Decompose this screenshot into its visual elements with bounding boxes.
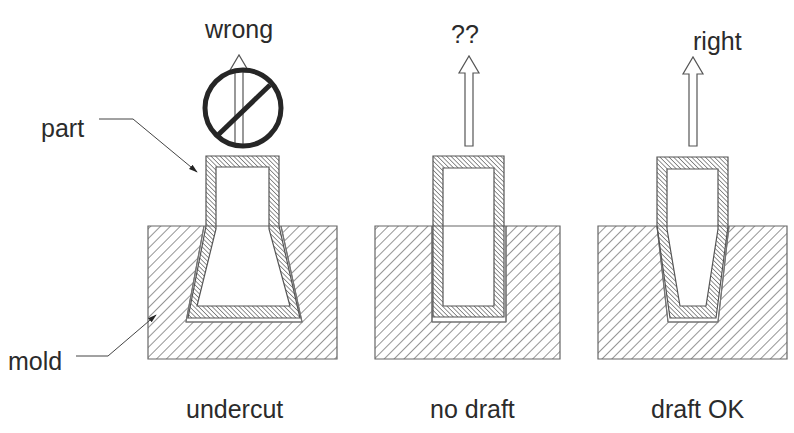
mold-block: [598, 226, 787, 359]
part-shell: [433, 156, 504, 317]
diagram-canvas: wrong ?? right part mold undercut no dra…: [0, 0, 794, 433]
ejection-arrow: [459, 56, 479, 146]
top-label-wrong: wrong: [205, 17, 273, 42]
top-label-right: right: [693, 29, 742, 54]
diagram-svg: [0, 0, 794, 433]
mold-label: mold: [8, 349, 62, 374]
panel-draft-ok: [598, 57, 787, 359]
part-label: part: [41, 116, 84, 141]
caption-draft-ok: draft OK: [651, 397, 744, 422]
part-leader-line: [99, 119, 197, 172]
mold-block: [375, 226, 560, 359]
caption-no-draft: no draft: [430, 397, 515, 422]
mold-leader-line: [76, 315, 156, 356]
top-label-question: ??: [451, 22, 479, 47]
panel-undercut: [148, 55, 337, 359]
caption-undercut: undercut: [186, 397, 283, 422]
panel-no-draft: [375, 56, 560, 359]
mold-block: [148, 226, 337, 359]
part-shell: [657, 157, 728, 318]
ejection-arrow: [683, 57, 703, 146]
